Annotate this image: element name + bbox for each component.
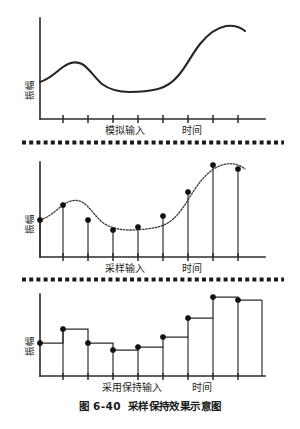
sample-points	[37, 162, 240, 232]
figure-caption-number: 图 6-40	[79, 400, 121, 412]
staircase-hold-path	[40, 297, 262, 350]
y-axis-label: 振幅	[24, 336, 35, 356]
hold-sample-points	[37, 294, 240, 352]
y-axis-label: 振幅	[24, 80, 35, 100]
panel-separator-1	[22, 140, 284, 145]
y-axis-label: 振幅	[24, 214, 35, 234]
analog-input-plot: 振幅 模拟输入 时间	[0, 0, 300, 138]
hold-output-plot: 振幅 采用保持输入 时间	[0, 288, 300, 394]
analog-waveform-curve	[40, 26, 245, 92]
sampled-input-plot: 振幅 采样输入 时间	[0, 152, 300, 276]
figure-caption: 图 6-40采样保持效果示意图	[0, 398, 300, 413]
x-axis-label-primary: 模拟输入	[105, 124, 145, 136]
figure-root: 振幅 模拟输入 时间	[0, 0, 300, 429]
x-axis-label-secondary: 时间	[182, 262, 202, 274]
panel-hold-input: 振幅 采用保持输入 时间	[0, 288, 300, 394]
sample-stems	[40, 165, 238, 257]
underlying-analog-curve	[40, 164, 245, 230]
x-axis-label-secondary: 时间	[182, 124, 202, 136]
panel-sampled-input: 振幅 采样输入 时间	[0, 152, 300, 276]
x-axis-label-primary: 采用保持输入	[102, 381, 162, 393]
panel-analog-input: 振幅 模拟输入 时间	[0, 0, 300, 138]
x-axis-label-secondary: 时间	[192, 381, 212, 393]
x-axis-label-primary: 采样输入	[105, 262, 145, 274]
panel-separator-2	[22, 277, 284, 282]
figure-caption-title: 采样保持效果示意图	[128, 400, 222, 412]
